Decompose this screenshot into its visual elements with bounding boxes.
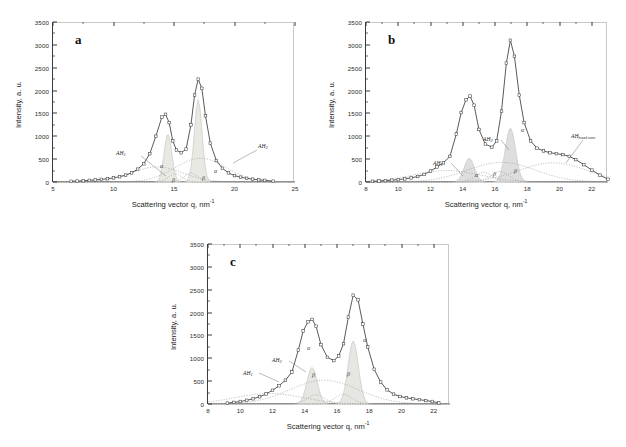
annotation-alpha-peak: α [214, 168, 217, 174]
y-tick-label: 3000 [348, 41, 366, 48]
annotation-alpha-peak: α [475, 172, 478, 178]
x-axis-label-b: Scattering vector q, nm-1 [365, 198, 607, 209]
annotation-alpha-peak: α [307, 345, 310, 351]
annotation-amorphous-halo: AH1 [116, 150, 126, 157]
x-tick-label: 10 [395, 181, 402, 192]
plot-area-a: 0500100015002000250030003500510152025 [52, 22, 294, 182]
y-tick-label: 500 [351, 156, 366, 163]
annotation-label-subscript: 1 [440, 162, 442, 167]
x-tick-label: 14 [459, 181, 466, 192]
y-tick-label: 2500 [35, 64, 53, 71]
annotation-beta-peak: β [514, 168, 517, 174]
annotation-leader-line [53, 22, 295, 182]
panel-b: b 05001000150020002500300035008101214161… [313, 0, 626, 220]
x-tick-label: 8 [206, 403, 210, 414]
x-axis-label-exponent: -1 [365, 420, 370, 426]
y-tick-label: 1000 [348, 133, 366, 140]
x-tick-label: 10 [110, 181, 117, 192]
y-tick-label: 3000 [190, 263, 208, 270]
y-tick-label: 500 [193, 378, 208, 385]
x-tick-label: 16 [492, 181, 499, 192]
x-axis-label-text: Scattering vector q, nm [445, 200, 523, 209]
x-tick-label: 18 [366, 403, 373, 414]
leader-line [566, 140, 583, 163]
y-tick-label: 1000 [35, 133, 53, 140]
y-tick-label: 2000 [190, 309, 208, 316]
y-tick-label: 2000 [35, 87, 53, 94]
x-axis-label-exponent: -1 [210, 198, 215, 204]
x-axis-label-exponent: -1 [523, 198, 528, 204]
annotation-amorphous-halo: AH1 [243, 370, 253, 377]
leader-line [289, 361, 306, 372]
y-tick-label: 1000 [190, 355, 208, 362]
x-tick-label: 12 [427, 181, 434, 192]
y-tick-label: 3500 [35, 19, 53, 26]
leader-line [233, 150, 257, 163]
x-tick-label: 5 [51, 181, 55, 192]
annotation-beta-peak: β [312, 372, 315, 378]
figure-three-panel-xrd: a 0500100015002000250030003500510152025 … [0, 0, 626, 447]
y-tick-label: 2000 [348, 87, 366, 94]
annotation-amorphous-halo: AH2 [258, 143, 268, 150]
annotation-amorphous-halo: AH1 [433, 160, 443, 167]
x-tick-label: 20 [231, 181, 238, 192]
x-tick-label: 8 [364, 181, 368, 192]
y-tick-label: 3500 [190, 241, 208, 248]
x-axis-label-text: Scattering vector q, nm [287, 422, 365, 431]
x-tick-label: 22 [588, 181, 595, 192]
x-tick-label: 12 [269, 403, 276, 414]
y-tick-label: 2500 [190, 286, 208, 293]
annotation-label-subscript: bound water [578, 136, 595, 140]
x-tick-label: 14 [301, 403, 308, 414]
annotation-label-subscript: 1 [250, 372, 252, 377]
y-tick-label: 2500 [348, 64, 366, 71]
annotation-alpha-peak: α [363, 337, 366, 343]
y-axis-label-c: Intensity, a. u. [169, 303, 178, 350]
annotation-beta-peak: β [202, 175, 205, 181]
y-tick-label: 500 [38, 156, 53, 163]
x-tick-label: 25 [291, 181, 298, 192]
y-tick-label: 3500 [348, 19, 366, 26]
annotation-leader-line [208, 244, 450, 404]
panel-a: a 0500100015002000250030003500510152025 … [0, 0, 320, 220]
x-tick-label: 22 [430, 403, 437, 414]
y-tick-label: 1500 [35, 110, 53, 117]
x-tick-label: 18 [524, 181, 531, 192]
annotation-amorphous-halo: AHbound water [571, 133, 596, 140]
annotation-leader-line [366, 22, 608, 182]
x-axis-label-a: Scattering vector q, nm-1 [52, 198, 294, 209]
x-axis-label-text: Scattering vector q, nm [132, 200, 210, 209]
annotation-label-subscript: 1 [123, 152, 125, 157]
annotation-beta-peak: β [493, 171, 496, 177]
panel-c: c 05001000150020002500300035008101214161… [155, 222, 475, 447]
x-tick-label: 20 [398, 403, 405, 414]
annotation-amorphous-halo: AH2 [483, 136, 493, 143]
y-axis-label-b: Intensity, a. u. [327, 81, 336, 128]
y-tick-label: 3000 [35, 41, 53, 48]
x-tick-label: 10 [237, 403, 244, 414]
x-tick-label: 16 [334, 403, 341, 414]
annotation-alpha-peak: α [160, 163, 163, 169]
y-axis-label-a: Intensity, a. u. [14, 81, 23, 128]
annotation-amorphous-halo: AH2 [272, 357, 282, 364]
y-tick-label: 1500 [348, 110, 366, 117]
plot-area-b: 0500100015002000250030003500810121416182… [365, 22, 607, 182]
annotation-label-subscript: 2 [490, 138, 492, 143]
x-tick-label: 20 [556, 181, 563, 192]
y-tick-label: 1500 [190, 332, 208, 339]
annotation-alpha-peak: α [521, 127, 524, 133]
x-axis-label-c: Scattering vector q, nm-1 [207, 420, 449, 431]
annotation-beta-peak: β [172, 177, 175, 183]
plot-area-c: 0500100015002000250030003500810121416182… [207, 244, 449, 404]
annotation-beta-peak: β [347, 371, 350, 377]
annotation-label-subscript: 2 [265, 145, 267, 150]
annotation-label-subscript: 2 [279, 359, 281, 364]
